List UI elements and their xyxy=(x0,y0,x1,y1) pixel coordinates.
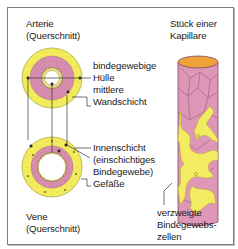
artery-subtitle: (Querschnitt) xyxy=(26,30,80,41)
capillary-subtitle: Kapillare xyxy=(170,30,206,41)
artery-title: Arterie xyxy=(26,18,54,29)
label-branched-cells-1: verzweigte xyxy=(157,207,202,218)
vein-subtitle: (Querschnitt) xyxy=(26,223,80,234)
capillary-title: Stück einer xyxy=(170,18,217,29)
label-vessels: Gefäße xyxy=(93,178,124,189)
label-outer-layer-2: Hülle xyxy=(93,72,114,83)
label-middle-layer-1: mittlere xyxy=(93,84,124,95)
label-inner-layer-2: (einschichtiges xyxy=(93,154,155,165)
label-inner-layer-1: Innenschicht xyxy=(93,142,146,153)
vein-title: Vene xyxy=(26,211,47,222)
label-outer-layer-1: bindegewebige xyxy=(93,60,156,71)
label-branched-cells-2: Bindegewebs- xyxy=(157,219,217,230)
label-middle-layer-2: Wandschicht xyxy=(93,96,146,107)
label-branched-cells-3: zellen xyxy=(157,231,181,242)
capillary-segment xyxy=(178,56,218,226)
label-inner-layer-3: Bindegewebe) xyxy=(93,166,153,177)
